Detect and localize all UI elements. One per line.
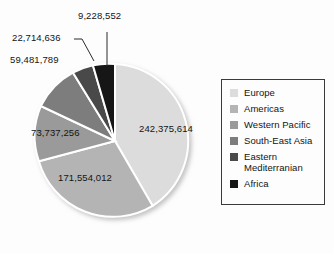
legend-label-western-pacific: Western Pacific <box>244 119 311 130</box>
legend-swatch-eastern-mediterranian <box>230 153 238 161</box>
slice-value-americas: 171,554,012 <box>58 172 112 183</box>
legend-swatch-western-pacific <box>230 121 238 129</box>
legend-swatch-africa <box>230 180 238 188</box>
legend-label-eastern-mediterranian: Eastern Mediterranian <box>244 151 322 173</box>
legend-item-south-east-asia[interactable]: South-East Asia <box>230 135 324 146</box>
slice-value-eastern-mediterranian: 22,714,636 <box>12 32 61 43</box>
pie-chart-figure: 242,375,614 171,554,012 73,737,256 59,48… <box>0 0 334 254</box>
slice-value-europe: 242,375,614 <box>139 123 193 134</box>
legend-swatch-americas <box>230 105 238 113</box>
pie-slices-group <box>35 64 188 217</box>
legend-label-europe: Europe <box>244 87 275 98</box>
slice-value-africa: 9,228,552 <box>78 10 121 21</box>
slice-value-south-east-asia: 59,481,789 <box>10 54 59 65</box>
legend-label-south-east-asia: South-East Asia <box>244 135 312 146</box>
legend-item-europe[interactable]: Europe <box>230 87 324 98</box>
legend-swatch-south-east-asia <box>230 137 238 145</box>
legend-item-western-pacific[interactable]: Western Pacific <box>230 119 324 130</box>
chart-legend: Europe Americas Western Pacific South-Ea… <box>221 79 325 205</box>
slice-value-western-pacific: 73,737,256 <box>31 127 80 138</box>
legend-item-americas[interactable]: Americas <box>230 103 324 114</box>
legend-label-africa: Africa <box>244 178 269 189</box>
leader-line-eastern-mediterranian <box>74 39 94 61</box>
legend-label-americas: Americas <box>244 103 284 114</box>
legend-swatch-europe <box>230 89 238 97</box>
legend-item-africa[interactable]: Africa <box>230 178 324 189</box>
legend-item-eastern-mediterranian[interactable]: Eastern Mediterranian <box>230 151 324 173</box>
